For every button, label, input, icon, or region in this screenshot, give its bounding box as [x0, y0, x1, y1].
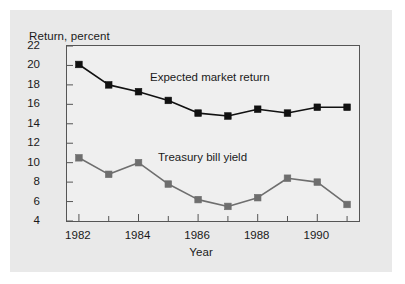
y-tick-label-6: 6 [0, 195, 40, 207]
data-point [76, 61, 83, 68]
data-point [344, 104, 351, 111]
data-point [225, 113, 232, 120]
y-tick-label-22: 22 [0, 39, 40, 51]
data-point [225, 203, 232, 210]
y-tick-label-20: 20 [0, 58, 40, 70]
data-point [135, 88, 142, 95]
y-tick-label-14: 14 [0, 117, 40, 129]
data-point [76, 155, 83, 162]
data-point [284, 110, 291, 117]
y-axis-title: Return, percent [29, 30, 110, 42]
data-point [314, 104, 321, 111]
data-point [195, 196, 202, 203]
data-point [135, 159, 142, 166]
x-tick-label-1988: 1988 [234, 229, 280, 241]
line-chart: Return, percent 46810121416182022 198219… [10, 10, 392, 272]
x-tick-label-1982: 1982 [55, 229, 101, 241]
data-point [165, 97, 172, 104]
series-label-expected-market-return: Expected market return [150, 71, 270, 83]
y-axis-tick-marks [67, 46, 73, 221]
y-tick-label-12: 12 [0, 136, 40, 148]
x-tick-label-1986: 1986 [174, 229, 220, 241]
data-point [254, 194, 261, 201]
y-tick-label-4: 4 [0, 214, 40, 226]
x-tick-label-1984: 1984 [115, 229, 161, 241]
data-point [105, 82, 112, 89]
series-layer [76, 61, 351, 210]
x-axis-title: Year [10, 246, 392, 258]
data-point [195, 110, 202, 117]
data-point [314, 179, 321, 186]
data-point [165, 181, 172, 188]
data-point [105, 171, 112, 178]
series-expected-market-return [76, 61, 351, 119]
series-label-treasury-bill-yield: Treasury bill yield [158, 151, 247, 163]
data-point [284, 175, 291, 182]
y-tick-label-10: 10 [0, 156, 40, 168]
figure-card: Return, percent 46810121416182022 198219… [10, 10, 392, 272]
y-tick-label-18: 18 [0, 78, 40, 90]
y-tick-label-16: 16 [0, 97, 40, 109]
x-axis-tick-marks [79, 214, 347, 221]
y-tick-label-8: 8 [0, 175, 40, 187]
x-tick-label-1990: 1990 [293, 229, 339, 241]
data-point [344, 201, 351, 208]
data-point [254, 106, 261, 113]
